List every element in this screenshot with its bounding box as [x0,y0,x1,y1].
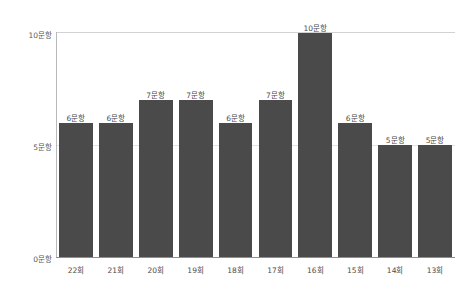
bar[interactable] [378,145,412,257]
y-axis-tick-labels: 10문항 5문항 0문항 [0,0,52,295]
bar-group: 5문항14회 [375,0,415,295]
x-axis-tick-label: 19회 [176,264,216,275]
x-axis-tick-label: 16회 [295,264,335,275]
bar-value-label: 5문항 [375,134,415,145]
bar-group: 6문항22회 [56,0,96,295]
x-axis-tick-label: 20회 [136,264,176,275]
bar[interactable] [219,123,253,257]
bar-chart: 10문항 5문항 0문항 6문항22회6문항21회7문항20회7문항19회6문항… [0,0,467,295]
bar-group: 6문항21회 [96,0,136,295]
bar-value-label: 6문항 [56,112,96,123]
bar-group: 7문항19회 [176,0,216,295]
bar-group: 6문항15회 [335,0,375,295]
x-axis-tick-label: 22회 [56,264,96,275]
bar-group: 5문항13회 [415,0,455,295]
bar-group: 7문항20회 [136,0,176,295]
bar[interactable] [418,145,452,257]
bar-series: 6문항22회6문항21회7문항20회7문항19회6문항18회7문항17회10문항… [56,0,455,295]
x-axis-tick-label: 13회 [415,264,455,275]
bar[interactable] [99,123,133,257]
bar-group: 7문항17회 [256,0,296,295]
x-axis-tick-label: 18회 [216,264,256,275]
bar-value-label: 5문항 [415,134,455,145]
x-axis-tick-label: 21회 [96,264,136,275]
bar[interactable] [259,100,293,257]
y-axis-tick-label-5: 5문항 [6,141,52,152]
x-axis-tick-label: 14회 [375,264,415,275]
bar[interactable] [179,100,213,257]
bar[interactable] [298,33,332,257]
bar[interactable] [139,100,173,257]
bar-value-label: 7문항 [136,89,176,100]
bar-value-label: 6문항 [335,112,375,123]
bar-value-label: 6문항 [216,112,256,123]
bar[interactable] [59,123,93,257]
y-axis-tick-label-10: 10문항 [6,29,52,40]
bar-value-label: 7문항 [256,89,296,100]
y-axis-tick-label-0: 0문항 [6,253,52,264]
bar[interactable] [338,123,372,257]
bar-group: 10문항16회 [295,0,335,295]
x-axis-tick-label: 17회 [256,264,296,275]
bar-group: 6문항18회 [216,0,256,295]
bar-value-label: 7문항 [176,89,216,100]
x-axis-tick-label: 15회 [335,264,375,275]
bar-value-label: 6문항 [96,112,136,123]
bar-value-label: 10문항 [295,22,335,33]
